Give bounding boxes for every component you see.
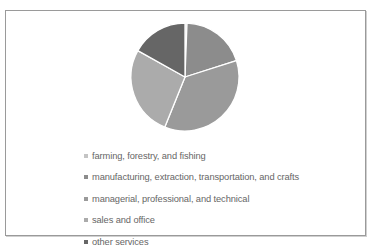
legend-item-manufacturing: manufacturing, extraction, transportatio…	[84, 168, 299, 186]
legend-swatch-icon	[84, 175, 88, 179]
legend-swatch-icon	[84, 218, 88, 222]
chart-legend: farming, forestry, and fishing manufactu…	[84, 147, 299, 249]
legend-item-sales: sales and office	[84, 211, 299, 229]
legend-label: other services	[92, 237, 148, 247]
legend-swatch-icon	[84, 154, 88, 158]
legend-item-other: other services	[84, 233, 299, 249]
legend-label: managerial, professional, and technical	[92, 194, 249, 204]
legend-swatch-icon	[84, 240, 88, 244]
legend-swatch-icon	[84, 197, 88, 201]
legend-item-farming: farming, forestry, and fishing	[84, 147, 299, 165]
legend-label: sales and office	[92, 215, 155, 225]
legend-label: farming, forestry, and fishing	[92, 151, 206, 161]
legend-item-managerial: managerial, professional, and technical	[84, 190, 299, 208]
legend-label: manufacturing, extraction, transportatio…	[92, 172, 299, 182]
